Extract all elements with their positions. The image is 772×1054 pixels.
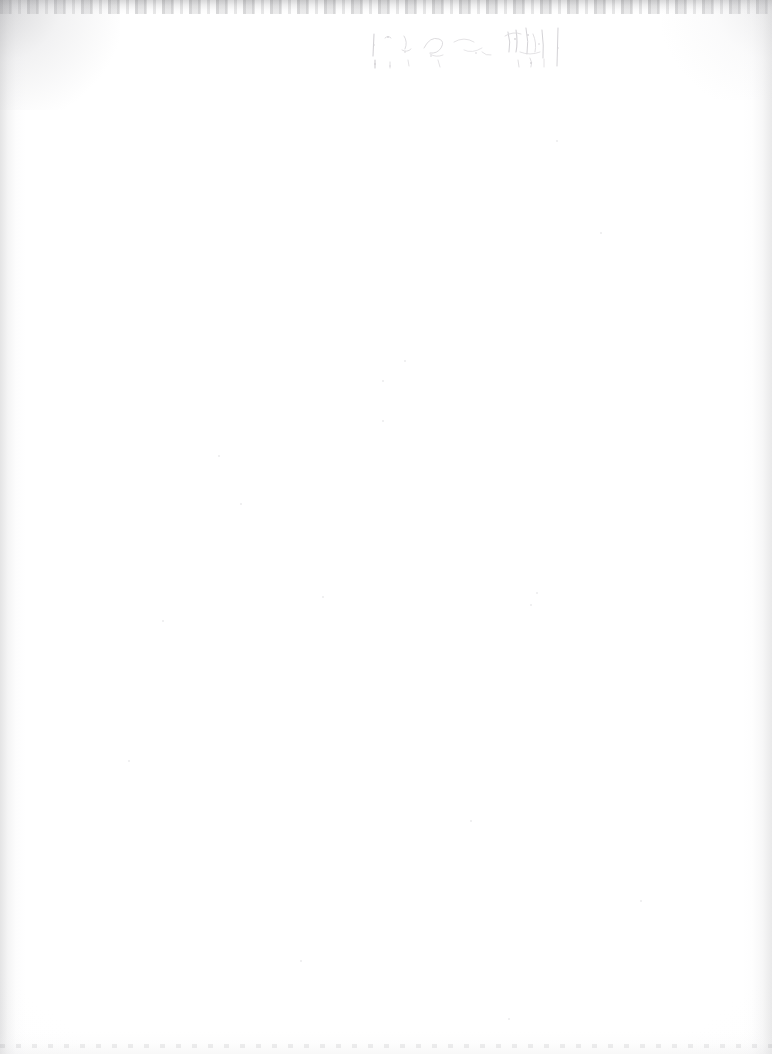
paper-surface [0,0,772,1054]
handwritten-header-mark: faint illegible handwritten mark [368,26,584,72]
scanned-page: faint illegible handwritten mark [0,0,772,1054]
